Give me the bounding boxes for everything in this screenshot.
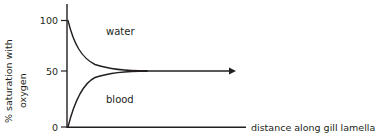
y-tick-label-0: 0 [52, 122, 58, 133]
oxygen-saturation-chart: % saturation with oxygen 100 50 0 water … [0, 0, 388, 139]
y-axis-label-line1: % saturation with [3, 39, 14, 123]
series-label-water: water [106, 26, 135, 37]
equilibrium-arrow-icon [229, 68, 236, 75]
y-axis-label: % saturation with oxygen [3, 39, 28, 123]
series-label-blood: blood [106, 94, 134, 105]
y-tick-label-50: 50 [46, 66, 58, 77]
y-tick-label-100: 100 [40, 15, 58, 26]
x-axis-label: distance along gill lamella [251, 122, 375, 133]
y-axis-label-line2: oxygen [17, 73, 28, 108]
chart-canvas: % saturation with oxygen 100 50 0 water … [0, 0, 388, 139]
